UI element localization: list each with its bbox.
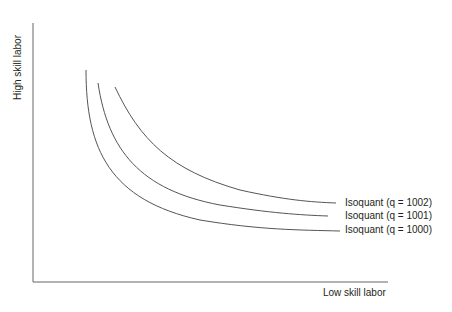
- isoquant-label-1001: Isoquant (q = 1001): [345, 210, 432, 221]
- x-axis-label: Low skill labor: [323, 287, 386, 298]
- isoquant-curve-1001: [98, 83, 328, 216]
- isoquant-curve-1002: [115, 87, 336, 203]
- isoquant-label-1002: Isoquant (q = 1002): [345, 197, 432, 208]
- isoquant-label-1000: Isoquant (q = 1000): [345, 224, 432, 235]
- isoquant-diagram: High skill labor Low skill labor Isoquan…: [0, 0, 452, 312]
- plot-area: [0, 0, 452, 312]
- isoquant-curve-1000: [86, 70, 340, 231]
- y-axis-label: High skill labor: [12, 23, 23, 113]
